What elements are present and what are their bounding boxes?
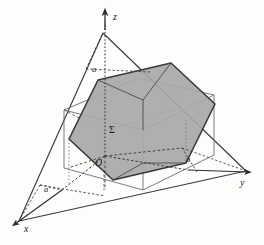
intercept-label-a-top: a xyxy=(92,64,96,74)
geometry-canvas: z y x O Σ a a a xyxy=(0,0,264,245)
geometry-figure: z y x O Σ a a a xyxy=(0,0,264,245)
axis-label-z: z xyxy=(112,11,117,22)
surface-label-sigma: Σ xyxy=(109,124,115,135)
intercept-label-a-right: a xyxy=(186,154,190,164)
axis-label-y: y xyxy=(239,177,245,188)
origin-label: O xyxy=(95,157,102,168)
axis-label-x: x xyxy=(23,223,29,234)
intercept-label-a-left: a xyxy=(44,184,48,194)
x-axis-arrow xyxy=(15,190,62,224)
